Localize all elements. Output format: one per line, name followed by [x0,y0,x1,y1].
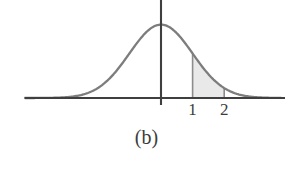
x-tick-label-1: 1 [183,101,203,118]
normal-distribution-figure: 1 2 (b) [0,0,293,169]
figure-caption: (b) [0,126,293,148]
x-tick-label-2: 2 [214,101,234,118]
normal-curve [25,25,281,98]
